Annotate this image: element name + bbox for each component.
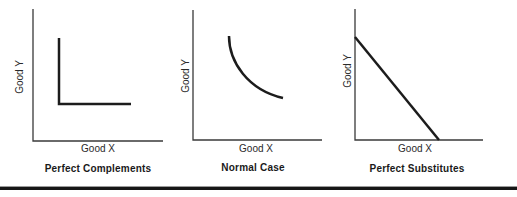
bottom-rule — [0, 186, 517, 190]
axes-perfect-complements — [33, 9, 163, 141]
y-axis-label: Good Y — [180, 59, 191, 93]
panel-perfect-complements-plot — [33, 9, 163, 141]
axes-perfect-substitutes — [355, 9, 483, 140]
l-shaped-curve — [59, 38, 131, 104]
convex-indifference-curve — [229, 36, 283, 98]
linear-substitutes-curve — [355, 37, 439, 140]
indifference-curves-figure: Good Y Good X Perfect Complements Good Y… — [0, 0, 517, 197]
panel-caption: Perfect Complements — [45, 163, 152, 174]
x-axis-label: Good X — [81, 143, 115, 154]
panel-caption: Perfect Substitutes — [370, 163, 465, 174]
axes-normal-case — [193, 10, 322, 140]
panel-normal-case-plot — [193, 10, 322, 140]
y-axis-label: Good Y — [14, 60, 25, 94]
x-axis-label: Good X — [239, 143, 273, 154]
bottom-rule-bar — [0, 187, 517, 190]
panel-perfect-substitutes-plot — [355, 9, 483, 140]
panel-caption: Normal Case — [221, 162, 284, 173]
x-axis-label: Good X — [398, 143, 432, 154]
y-axis-label: Good Y — [342, 54, 353, 88]
